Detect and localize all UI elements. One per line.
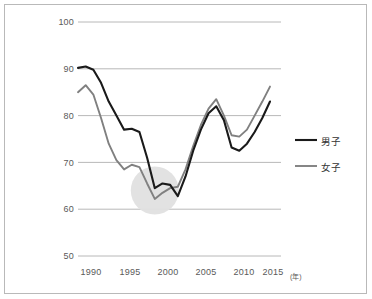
ytick-label-80: 80 — [48, 111, 74, 121]
ytick-label-50: 50 — [48, 251, 74, 261]
ytick-label-100: 100 — [48, 17, 74, 27]
x-axis-unit-label: (年) — [290, 271, 302, 281]
legend-swatches — [295, 140, 317, 166]
xtick-label-2000: 2000 — [151, 267, 185, 277]
ytick-label-70: 70 — [48, 158, 74, 168]
valley-highlight-circle — [131, 166, 179, 214]
xtick-label-1995: 1995 — [113, 267, 147, 277]
ytick-label-90: 90 — [48, 64, 74, 74]
chart-area: 100 90 80 70 60 50 1990 1995 2000 2005 2… — [0, 0, 372, 299]
xtick-label-1990: 1990 — [74, 267, 108, 277]
legend-label-female: 女子 — [321, 160, 341, 174]
legend-label-male: 男子 — [321, 134, 341, 148]
xtick-label-2005: 2005 — [189, 267, 223, 277]
chart-page: 100 90 80 70 60 50 1990 1995 2000 2005 2… — [0, 0, 372, 299]
ytick-label-60: 60 — [48, 204, 74, 214]
xtick-label-2015: 2015 — [256, 267, 290, 277]
